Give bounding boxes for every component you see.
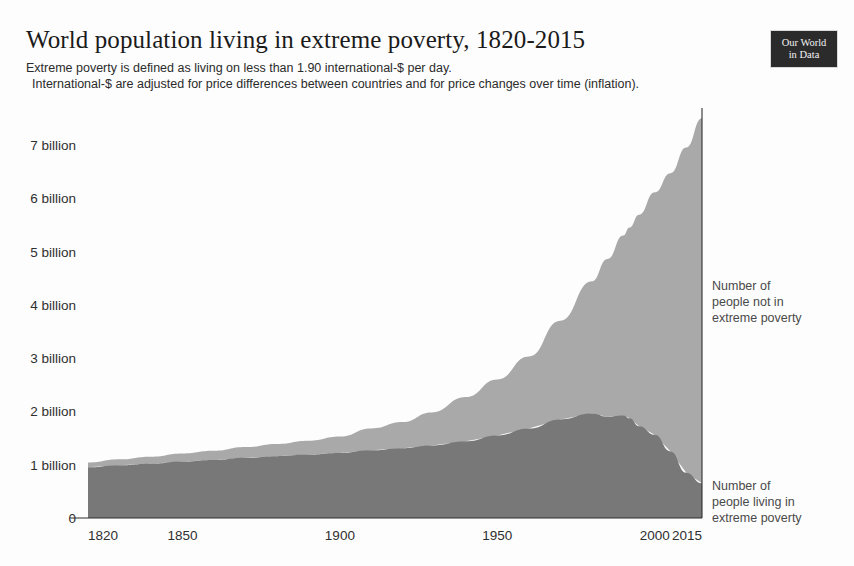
logo-line-2: in Data [789,49,820,61]
x-axis-tick-labels: 182018501900195020002015 [88,528,702,543]
x-axis-tick-1820: 1820 [88,528,118,543]
page-title: World population living in extreme pover… [26,26,726,54]
y-axis-tick-2: 2 billion [30,404,76,419]
y-axis-tick-6: 6 billion [30,191,76,206]
annotation-line: people not in [712,295,784,309]
x-axis-tick-1900: 1900 [325,528,355,543]
y-axis-tick-labels: 01 billion2 billion3 billion4 billion5 b… [30,138,76,526]
annotation-line: Number of [712,279,771,293]
x-axis-tick-1850: 1850 [167,528,197,543]
annotation-line: extreme poverty [712,511,802,525]
chart-subtitle-line-1: Extreme poverty is defined as living on … [26,60,726,76]
annotation-not-in-extreme-poverty: Number ofpeople not inextreme poverty [712,279,802,325]
chart-subtitle-line-2: International-$ are adjusted for price d… [26,76,726,92]
x-axis-tick-2000: 2000 [640,528,670,543]
y-axis-tick-1: 1 billion [30,458,76,473]
our-world-in-data-logo[interactable]: Our World in Data [770,30,838,68]
y-axis-tick-5: 5 billion [30,245,76,260]
y-axis-tick-3: 3 billion [30,351,76,366]
x-axis-tick-1950: 1950 [482,528,512,543]
annotation-line: extreme poverty [712,311,802,325]
chart-card: World population living in extreme pover… [0,0,854,566]
annotation-line: people living in [712,495,795,509]
stacked-area-chart: 01 billion2 billion3 billion4 billion5 b… [0,100,854,566]
plot-area: 01 billion2 billion3 billion4 billion5 b… [0,100,854,566]
y-axis-tick-7: 7 billion [30,138,76,153]
y-axis-tick-4: 4 billion [30,298,76,313]
annotation-living-in-extreme-poverty: Number ofpeople living inextreme poverty [712,479,802,525]
chart-header: World population living in extreme pover… [26,26,726,92]
x-axis-tick-2015: 2015 [672,528,702,543]
logo-line-1: Our World [782,37,827,49]
annotation-line: Number of [712,479,771,493]
